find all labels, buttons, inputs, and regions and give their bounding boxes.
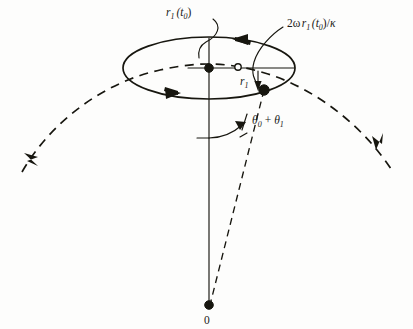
label-radius-t0-arg-close: ) — [188, 6, 192, 19]
label-angle-theta1-sub: 1 — [280, 120, 284, 129]
label-angle-theta0-sub: 0 — [258, 120, 262, 129]
label-angle-plus: + — [265, 114, 272, 126]
rotation-arrow-top-head — [232, 34, 248, 45]
origin-dot — [205, 301, 214, 310]
label-radius-small-sub: 1 — [244, 81, 248, 90]
angle-arc-end-tick — [240, 133, 247, 137]
label-radius-t0: r1(t0) — [166, 6, 192, 21]
circle-center-dot — [205, 64, 214, 73]
label-velocity: 2ωr1(t0)/κ — [287, 17, 336, 32]
label-velocity-kappa: κ — [330, 17, 336, 29]
trajectory-arrow-right — [372, 133, 383, 150]
diagram-canvas: r1(t0) 2ωr1(t0)/κ r1 θ0+θ1 0 — [0, 0, 413, 329]
label-velocity-base-sub: 1 — [306, 23, 310, 32]
label-radius-t0-base-sub: 1 — [170, 12, 174, 21]
radius-t0-leader — [199, 19, 218, 58]
label-origin: 0 — [204, 314, 210, 326]
projection-open-circle — [235, 64, 241, 70]
label-angle: θ0+θ1 — [252, 114, 284, 129]
label-radius-small: r1 — [240, 75, 248, 90]
orbit-trajectory-dashed — [22, 64, 393, 172]
label-velocity-prefix: 2ω — [287, 17, 301, 29]
figure-root: r1(t0) 2ωr1(t0)/κ r1 θ0+θ1 0 — [0, 0, 413, 329]
particle-dot — [259, 85, 269, 95]
angle-arc — [197, 121, 247, 138]
